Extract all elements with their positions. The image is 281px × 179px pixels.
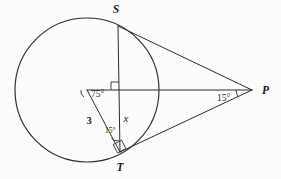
side-label-segment-x: x <box>123 112 129 124</box>
segment-s-to-t <box>118 26 120 152</box>
geometry-diagram-root: S T P 75° 15° 15° 3 x <box>0 0 281 179</box>
angle-arc-center <box>81 90 84 97</box>
angle-arc-p <box>236 90 239 97</box>
point-label-t: T <box>116 161 124 173</box>
geometry-figure: S T P 75° 15° 15° 3 x <box>0 0 281 179</box>
angle-label-center-75: 75° <box>91 89 105 99</box>
point-label-s: S <box>113 3 119 15</box>
side-label-radius-3: 3 <box>86 115 91 126</box>
point-label-p: P <box>262 84 270 96</box>
segment-center-to-t <box>87 90 120 152</box>
segment-t-to-p <box>120 90 252 152</box>
angle-label-p-15: 15° <box>217 93 231 103</box>
right-angle-marker-center <box>111 82 119 90</box>
angle-label-t-15: 15° <box>105 126 116 135</box>
segment-s-to-p <box>118 26 252 90</box>
